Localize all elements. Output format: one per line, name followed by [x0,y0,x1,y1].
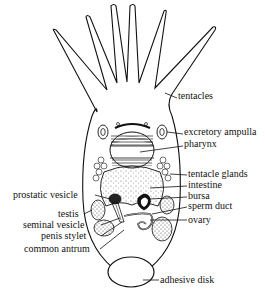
label-tentacles: tentacles [178,90,213,101]
label-prostatic-vesicle: prostatic vesicle [13,189,78,200]
pharynx [110,132,154,168]
label-tentacle-glands: tentacle glands [188,168,248,179]
excretory-ampulla-left [98,125,108,139]
label-common-antrum: common antrum [24,243,90,254]
adhesive-disk [108,257,154,287]
label-excretory-ampulla: excretory ampulla [184,126,256,137]
label-penis-stylet: penis stylet [41,230,86,241]
excretory-ampulla-right [157,125,167,139]
ovary-lower [152,217,172,241]
testis-upper [91,200,105,220]
label-adhesive-disk: adhesive disk [160,274,214,285]
label-sperm-duct: sperm duct [188,200,232,211]
label-ovary: ovary [188,214,211,225]
label-pharynx: pharynx [184,138,217,149]
sperm-duct [124,213,153,229]
label-seminal-vesicle: seminal vesicle [23,219,84,230]
label-intestine: intestine [188,179,222,190]
label-testis: testis [58,208,79,219]
